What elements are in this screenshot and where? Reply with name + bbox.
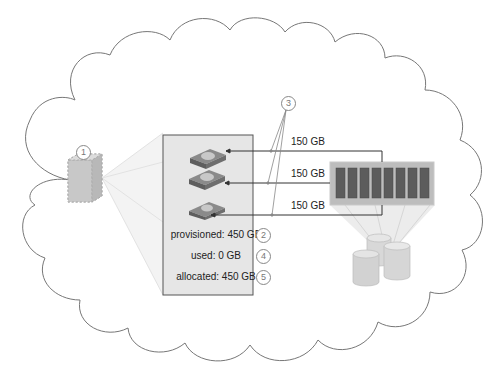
link-label-2: 150 GB [291, 168, 325, 179]
link-label-3: 150 GB [291, 200, 325, 211]
callout-2: 2 [256, 228, 271, 243]
provisioned-stat: provisioned: 450 GB [163, 229, 269, 240]
callout-1: 1 [76, 145, 91, 160]
callout-3: 3 [281, 96, 296, 111]
diagram-canvas [0, 0, 503, 387]
link-label-1: 150 GB [291, 136, 325, 147]
virtual-machine-icon [68, 154, 102, 202]
callout-5: 5 [256, 270, 271, 285]
allocated-stat: allocated: 450 GB [163, 271, 269, 282]
used-stat: used: 0 GB [163, 250, 269, 261]
callout-4: 4 [256, 249, 271, 264]
storage-array-icon [330, 162, 434, 205]
